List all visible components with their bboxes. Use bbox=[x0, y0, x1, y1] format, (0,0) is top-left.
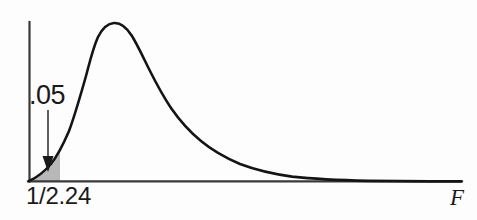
x-axis-title: F bbox=[450, 186, 464, 209]
f-distribution-figure: .05 1/2.24 F bbox=[0, 0, 477, 220]
x-axis-tick-label: 1/2.24 bbox=[26, 184, 91, 208]
alpha-area-label: .05 bbox=[29, 82, 65, 109]
f-density-curve bbox=[29, 23, 461, 181]
